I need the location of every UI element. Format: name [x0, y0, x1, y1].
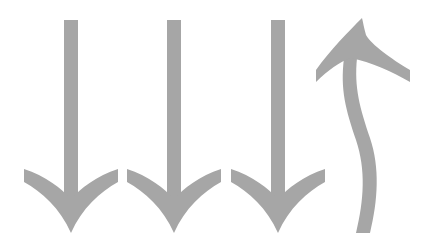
arrows-figure [0, 0, 432, 245]
down-arrow-icon [24, 20, 118, 233]
down-arrow-icon [127, 20, 221, 233]
curved-up-arrow-icon [316, 18, 410, 233]
down-arrow-icon [231, 20, 325, 233]
